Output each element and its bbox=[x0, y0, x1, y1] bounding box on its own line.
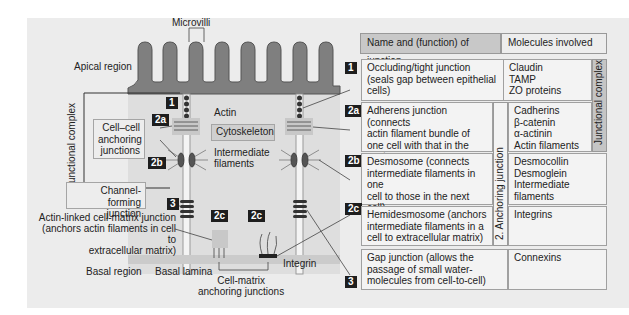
junctional-complex-table-label: Junctional complex bbox=[593, 60, 604, 145]
anchoring-junction-label: 2. Anchoring junction bbox=[494, 147, 505, 240]
row-2b-molecules: Desmocollin Desmoglein Intermediate fila… bbox=[508, 153, 607, 205]
row-2c-molecules: Integrins bbox=[508, 206, 607, 246]
cytoskeleton-label: Cytoskeleton bbox=[211, 124, 275, 141]
badge-2c-right: 2c bbox=[248, 210, 265, 222]
microvilli-label: Microvilli bbox=[172, 17, 210, 28]
row-3-molecules: Connexins bbox=[508, 249, 607, 290]
row-2c-name: Hemidesmosome (anchors intermediate fila… bbox=[361, 206, 493, 246]
badge-1: 1 bbox=[166, 97, 178, 109]
badge-2a: 2a bbox=[152, 114, 169, 126]
table-badge-2a: 2a bbox=[345, 105, 362, 117]
row-3-name: Gap junction (allows the passage of smal… bbox=[361, 249, 508, 290]
row-2a-name: Adherens junction (connects actin filame… bbox=[361, 102, 493, 152]
table-header-name: Name and (function) of junction bbox=[360, 33, 501, 54]
actin-label: Actin bbox=[214, 107, 236, 118]
junctional-complex-vertical-label: Junctional complex bbox=[66, 103, 77, 188]
row-2b-name: Desmosome (connects intermediate filamen… bbox=[361, 153, 493, 205]
table-header-molecules: Molecules involved bbox=[501, 33, 607, 54]
intermediate-filaments-label: Intermediate filaments bbox=[214, 147, 270, 169]
badge-2b: 2b bbox=[148, 157, 166, 169]
apical-region-label: Apical region bbox=[74, 61, 132, 72]
row-2a-molecules: Cadherins β-catenin α-actinin Actin fila… bbox=[508, 102, 592, 152]
basal-region-label: Basal region bbox=[86, 266, 142, 277]
cell-matrix-anchoring-label: Cell-matrix anchoring junctions bbox=[198, 275, 284, 297]
badge-2c-left: 2c bbox=[211, 210, 228, 222]
integrin-label: Integrin bbox=[283, 258, 316, 269]
row-1-name: Occluding/tight junction (seals gap betw… bbox=[361, 59, 504, 101]
row-1-molecules: Claudin TAMP ZO proteins bbox=[503, 59, 592, 101]
actin-linked-junction-label: Actin-linked cell-matrix junction (ancho… bbox=[36, 212, 176, 256]
microvilli-shape bbox=[128, 42, 340, 94]
table-badge-3: 3 bbox=[345, 276, 357, 288]
table-badge-2c: 2c bbox=[345, 203, 362, 215]
channel-forming-label: Channel-forming junction bbox=[66, 182, 146, 209]
badge-3: 3 bbox=[167, 198, 179, 210]
table-badge-1: 1 bbox=[345, 62, 357, 74]
cell-cell-anchoring-label: Cell–cell anchoring junctions bbox=[93, 119, 145, 159]
